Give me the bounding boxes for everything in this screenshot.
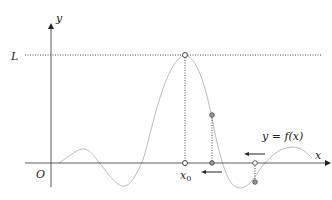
x0-point: [183, 161, 188, 166]
x0-label: x0: [180, 169, 191, 183]
arrow-left-icon: [244, 152, 265, 156]
point1-axis: [210, 161, 215, 166]
point2-axis: [253, 161, 258, 166]
y-axis-label: y: [55, 12, 63, 25]
origin-label: O: [36, 168, 45, 181]
limit-label: L: [10, 50, 18, 63]
x-axis-label: x: [315, 149, 322, 162]
limit-point: [183, 53, 188, 58]
y-axis-arrow-icon: [48, 23, 54, 29]
function-label: y = f(x): [261, 130, 303, 143]
point2-curve: [253, 180, 258, 185]
point1-curve: [210, 113, 215, 118]
arrow-left-icon: [201, 170, 222, 174]
limit-diagram: y x O L x0 y = f(x): [0, 0, 332, 200]
function-curve: [59, 55, 312, 188]
x-axis-arrow-icon: [325, 160, 331, 166]
